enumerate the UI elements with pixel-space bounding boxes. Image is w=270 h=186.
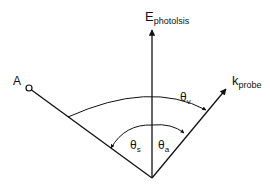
a-direction-line [32, 90, 153, 178]
theta-a-label: θa [158, 138, 170, 154]
e-photolysis-label: Ephotolsis [145, 9, 190, 26]
theta-v-label: θv [180, 90, 191, 106]
point-a-label: A [13, 74, 21, 88]
k-probe-label: kprobe [232, 73, 262, 90]
point-a-circle [26, 85, 32, 91]
theta-s-label: θs [130, 138, 141, 154]
angle-diagram: Ephotolsis kprobe A θv θs θa [0, 0, 270, 186]
theta-a-arc [152, 125, 184, 133]
